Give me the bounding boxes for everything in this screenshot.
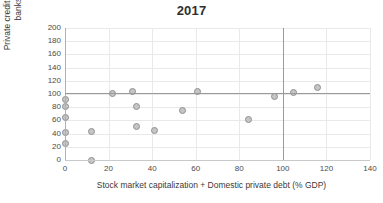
data-point bbox=[245, 116, 252, 123]
data-point bbox=[133, 103, 140, 110]
data-point bbox=[88, 128, 95, 135]
y-axis-tick-label: 160 bbox=[35, 50, 61, 58]
y-axis-tick-label: 80 bbox=[35, 103, 61, 111]
reference-line-horizontal bbox=[65, 93, 370, 94]
x-axis-tick-label: 100 bbox=[268, 165, 298, 173]
x-axis-tick-label: 20 bbox=[94, 165, 124, 173]
data-point bbox=[179, 107, 186, 114]
gridline-horizontal bbox=[65, 147, 370, 148]
x-axis-tick-label: 0 bbox=[50, 165, 80, 173]
reference-line-vertical bbox=[283, 28, 284, 160]
gridline-horizontal bbox=[65, 41, 370, 42]
y-axis-tick-label: 200 bbox=[35, 24, 61, 32]
gridline-horizontal bbox=[65, 81, 370, 82]
y-axis-tick-label: 120 bbox=[35, 77, 61, 85]
y-axis-tick-label: 40 bbox=[35, 130, 61, 138]
y-axis-title: Private credit by deposit money banks (%… bbox=[2, 0, 32, 58]
x-axis-tick-label: 60 bbox=[181, 165, 211, 173]
gridline-horizontal bbox=[65, 134, 370, 135]
scatter-chart: 2017 Private credit by deposit money ban… bbox=[0, 0, 383, 203]
gridline-horizontal bbox=[65, 28, 370, 29]
y-axis-tick-label: 180 bbox=[35, 37, 61, 45]
x-axis-tick-label: 120 bbox=[311, 165, 341, 173]
data-point bbox=[314, 84, 321, 91]
chart-title: 2017 bbox=[0, 3, 383, 18]
y-axis-tick-label: 20 bbox=[35, 143, 61, 151]
x-axis-tick-label: 40 bbox=[137, 165, 167, 173]
y-axis-tick-label: 140 bbox=[35, 64, 61, 72]
y-axis-tick-label: 100 bbox=[35, 90, 61, 98]
gridline-horizontal bbox=[65, 107, 370, 108]
x-axis-title: Stock market capitalization + Domestic p… bbox=[40, 180, 383, 190]
y-axis-tick-label: 0 bbox=[35, 156, 61, 164]
x-axis-tick-label: 140 bbox=[355, 165, 383, 173]
y-axis-tick-label: 60 bbox=[35, 116, 61, 124]
gridline-vertical bbox=[370, 28, 371, 160]
x-axis-tick-label: 80 bbox=[224, 165, 254, 173]
data-point bbox=[133, 123, 140, 130]
gridline-horizontal bbox=[65, 68, 370, 69]
gridline-horizontal bbox=[65, 120, 370, 121]
gridline-horizontal bbox=[65, 54, 370, 55]
x-axis-line bbox=[65, 160, 370, 161]
